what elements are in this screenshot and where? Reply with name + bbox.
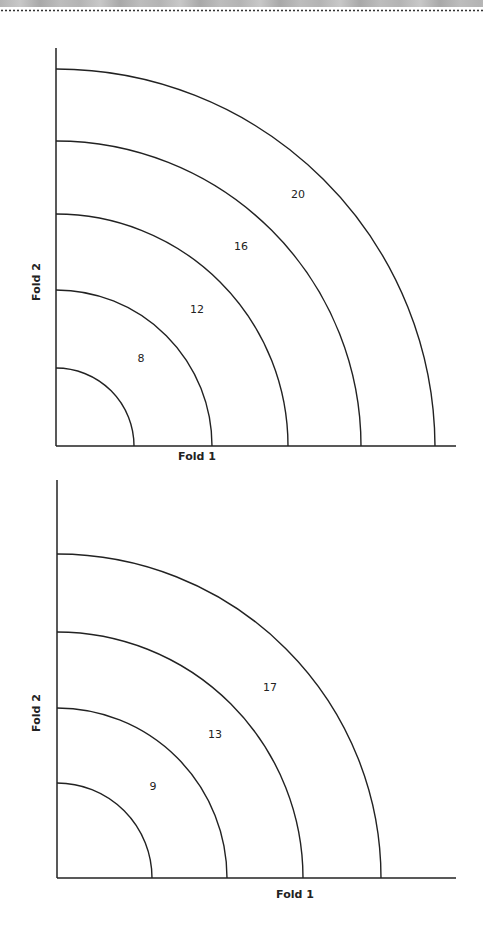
arcs: [56, 69, 435, 446]
arc-3: [56, 214, 288, 446]
x-axis-label: Fold 1: [178, 450, 216, 463]
ring-label: 16: [234, 240, 248, 253]
arc-1: [57, 783, 152, 878]
x-axis-label: Fold 1: [276, 888, 314, 901]
y-axis-label: Fold 2: [30, 694, 43, 732]
y-axis-label: Fold 2: [30, 263, 43, 301]
quarter-circle-diagram-2: 9 13 17 Fold 1 Fold 2: [0, 470, 483, 937]
arcs: [57, 554, 381, 878]
arc-3: [57, 632, 303, 878]
ring-label: 8: [138, 352, 145, 365]
ring-label: 13: [208, 728, 222, 741]
quarter-circle-diagram-1: 8 12 16 20 Fold 1 Fold 2: [0, 0, 483, 470]
arc-4: [57, 554, 381, 878]
arc-1: [56, 368, 134, 446]
arc-4: [56, 141, 361, 446]
ring-label: 9: [150, 780, 157, 793]
ring-label: 17: [263, 681, 277, 694]
arc-5: [56, 69, 435, 446]
ring-label: 20: [291, 188, 305, 201]
arc-2: [57, 708, 227, 878]
ring-label: 12: [190, 303, 204, 316]
arc-2: [56, 290, 212, 446]
